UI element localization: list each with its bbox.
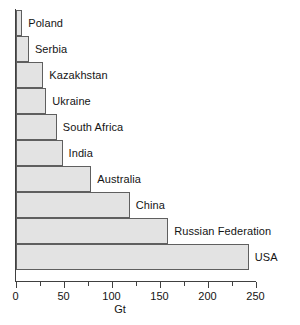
bar-row: Kazakhstan <box>16 62 44 88</box>
bar-label-kazakhstan: Kazakhstan <box>49 69 107 80</box>
bar-label-serbia: Serbia <box>35 43 67 54</box>
bar-row: Poland <box>16 10 23 36</box>
x-tick-label: 250 <box>246 290 264 302</box>
bar-label-australia: Australia <box>97 173 141 184</box>
x-tick-label: 0 <box>12 290 18 302</box>
bar-label-india: India <box>69 147 93 158</box>
bar-china <box>16 192 130 218</box>
x-tick-label: 50 <box>57 290 69 302</box>
bar-usa <box>16 244 249 270</box>
x-tick-major <box>208 282 209 288</box>
bar-label-ukraine: Ukraine <box>52 95 91 106</box>
x-tick-major <box>16 282 17 288</box>
x-tick-major <box>112 282 113 288</box>
bar-label-usa: USA <box>255 251 278 262</box>
x-tick-minor <box>88 282 89 286</box>
bar-russian-federation <box>16 218 169 244</box>
bar-chart: PolandSerbiaKazakhstanUkraineSouth Afric… <box>0 0 300 325</box>
bar-row: China <box>16 192 130 218</box>
x-tick-label: 200 <box>198 290 216 302</box>
bar-label-russian-federation: Russian Federation <box>174 225 271 236</box>
x-tick-label: 150 <box>150 290 168 302</box>
y-axis-line <box>15 9 16 282</box>
bar-row: Ukraine <box>16 88 47 114</box>
x-tick-major <box>64 282 65 288</box>
x-tick-major <box>160 282 161 288</box>
x-axis-title: Gt <box>114 303 126 315</box>
bar-poland <box>16 10 23 36</box>
bar-row: USA <box>16 244 249 270</box>
bar-australia <box>16 166 92 192</box>
x-tick-label: 100 <box>102 290 120 302</box>
bar-label-china: China <box>136 199 165 210</box>
bar-india <box>16 140 63 166</box>
x-tick-minor <box>136 282 137 286</box>
bar-kazakhstan <box>16 62 44 88</box>
x-tick-minor <box>232 282 233 286</box>
bar-row: South Africa <box>16 114 57 140</box>
bar-row: Serbia <box>16 36 29 62</box>
x-tick-major <box>256 282 257 288</box>
bar-ukraine <box>16 88 47 114</box>
bar-south-africa <box>16 114 57 140</box>
bar-row: India <box>16 140 63 166</box>
bar-label-poland: Poland <box>28 17 63 28</box>
bar-row: Australia <box>16 166 92 192</box>
bar-serbia <box>16 36 29 62</box>
x-tick-minor <box>184 282 185 286</box>
bar-row: Russian Federation <box>16 218 169 244</box>
plot-area: PolandSerbiaKazakhstanUkraineSouth Afric… <box>0 0 300 290</box>
bar-label-south-africa: South Africa <box>63 121 124 132</box>
x-tick-minor <box>40 282 41 286</box>
